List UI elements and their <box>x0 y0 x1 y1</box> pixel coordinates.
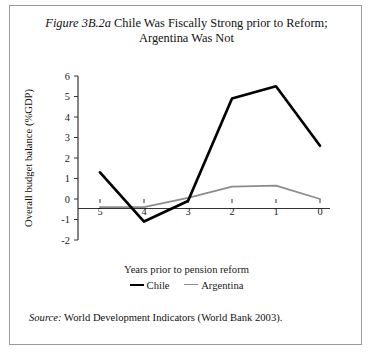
source-text: World Development Indicators (World Bank… <box>64 312 282 323</box>
y-tick-label: -2 <box>61 235 70 246</box>
y-axis-title: Overall budget balance (%GDP) <box>23 89 35 227</box>
y-axis-tick-labels: 6543210-1-2 <box>61 71 70 246</box>
x-tick-label: 2 <box>229 206 234 217</box>
x-axis-ticks <box>100 199 320 203</box>
y-tick-label: 1 <box>65 173 70 184</box>
source-note: Source: World Development Indicators (Wo… <box>29 312 282 323</box>
source-label: Source: <box>29 312 62 323</box>
y-tick-label: 2 <box>65 153 70 164</box>
legend-label-chile: Chile <box>147 280 170 291</box>
figure-title-line1: Chile Was Fiscally Strong prior to Refor… <box>114 16 328 30</box>
figure-number: Figure 3B.2a <box>45 16 111 30</box>
y-tick-label: 0 <box>65 194 70 205</box>
y-tick-label: 3 <box>65 132 70 143</box>
legend-swatch-argentina-icon <box>184 284 198 285</box>
x-tick-label: 3 <box>185 206 190 217</box>
line-chart: 6543210-1-2 543210 Overall budget balanc… <box>10 58 363 273</box>
data-series-group <box>100 86 320 221</box>
figure-frame: Figure 3B.2a Chile Was Fiscally Strong p… <box>9 5 362 345</box>
figure-title: Figure 3B.2a Chile Was Fiscally Strong p… <box>24 16 349 46</box>
y-tick-label: 6 <box>65 71 70 82</box>
series-line-chile <box>100 86 320 221</box>
legend-item-argentina: Argentina <box>184 279 243 291</box>
legend-swatch-chile-icon <box>130 284 144 286</box>
y-tick-label: 4 <box>65 112 71 123</box>
series-line-argentina <box>100 186 320 208</box>
legend-label-argentina: Argentina <box>201 280 243 291</box>
y-tick-label: 5 <box>65 91 70 102</box>
x-tick-label: 1 <box>273 206 278 217</box>
figure-title-line2: Argentina Was Not <box>139 31 234 45</box>
chart-plot-area: 6543210-1-2 543210 Overall budget balanc… <box>10 58 363 273</box>
y-axis: 6543210-1-2 <box>61 71 78 246</box>
legend-item-chile: Chile <box>130 279 170 291</box>
x-axis-title: Years prior to pension reform <box>124 264 249 275</box>
x-tick-label: 0 <box>317 206 322 217</box>
y-tick-label: -1 <box>61 214 70 225</box>
chart-legend: Chile Argentina <box>10 279 363 291</box>
